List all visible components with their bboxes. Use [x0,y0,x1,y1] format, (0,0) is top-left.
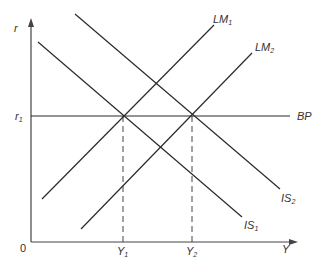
is1-label: IS1 [244,219,258,232]
y-axis-arrow-icon [28,18,34,27]
origin-label: 0 [20,242,26,254]
y-axis-label: r [14,22,19,34]
is-lm-bp-diagram: r Y 0 r1 Y1 Y2 LM1 LM2 BP IS1 IS2 [0,0,324,270]
lm2-label: LM2 [255,41,274,54]
bp-label: BP [297,110,312,122]
y2-label: Y2 [186,245,197,258]
x-axis-label: Y [282,243,290,255]
y1-label: Y1 [117,245,128,258]
is2-label: IS2 [281,192,295,205]
lm1-curve [42,25,214,199]
lm2-curve [81,53,252,229]
is2-curve [75,14,280,189]
is1-curve [38,42,242,217]
x-axis-arrow-icon [289,239,298,245]
lm1-label: LM1 [213,13,232,26]
r1-label: r1 [15,110,23,123]
